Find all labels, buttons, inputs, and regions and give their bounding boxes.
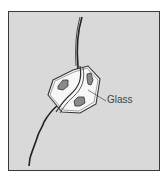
glass-label: Glass [107, 95, 133, 105]
glass-bead-diagram [0, 0, 165, 175]
